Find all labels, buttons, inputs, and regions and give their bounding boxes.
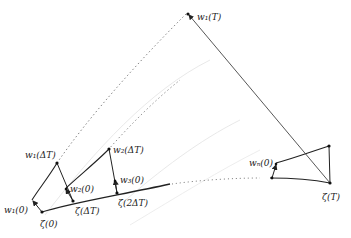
- base-curve-dotted: [172, 178, 260, 184]
- end-vertical: [329, 146, 330, 183]
- label-w1-T: w₁(T): [197, 12, 222, 22]
- point-zeta-2dT: [115, 191, 118, 194]
- label-wn-0: wₙ(0): [249, 158, 274, 168]
- label-w2-0: w₂(0): [70, 184, 95, 194]
- point-zeta-dT: [71, 199, 74, 202]
- label-w2-dT: w₂(ΔT): [113, 145, 144, 155]
- parallel-transport-diagram: w₁(T) w₁(ΔT) w₂(ΔT) w₂(0) w₃(0) w₁(0) ζ(…: [0, 0, 351, 238]
- connector-w1dT-zetadT: [57, 163, 73, 201]
- label-w3-0: w₃(0): [120, 175, 145, 185]
- wn-curve: [276, 146, 329, 163]
- label-zeta-2dT: ζ(2ΔT): [118, 198, 149, 208]
- faint-curve-3: [130, 150, 260, 225]
- point-zeta-0: [40, 210, 43, 213]
- label-zeta-T: ζ(T): [322, 192, 340, 202]
- point-end-top: [327, 144, 330, 147]
- label-w1-0: w₁(0): [4, 205, 29, 215]
- point-base-n: [271, 177, 274, 180]
- label-zeta-dT: ζ(ΔT): [75, 206, 100, 216]
- base-curve-zeta: [42, 184, 170, 212]
- w2-curve: [66, 150, 108, 188]
- w1-curve: [32, 163, 57, 200]
- base-curve-end: [270, 178, 330, 183]
- point-w2-dT: [107, 147, 110, 150]
- point-w2-0: [65, 188, 68, 191]
- label-zeta-0: ζ(0): [40, 219, 58, 229]
- point-zeta-T: [328, 181, 331, 184]
- vector-w1-0: [33, 201, 42, 212]
- w2-dotted: [108, 80, 180, 150]
- label-w1-dT: w₁(ΔT): [25, 150, 56, 160]
- faint-curve-2: [120, 120, 240, 205]
- point-w1-dT: [55, 161, 58, 164]
- point-w1-T: [186, 12, 189, 15]
- point-w3-0: [114, 180, 117, 183]
- point-wn-0: [275, 163, 278, 166]
- w1-dotted: [57, 14, 186, 163]
